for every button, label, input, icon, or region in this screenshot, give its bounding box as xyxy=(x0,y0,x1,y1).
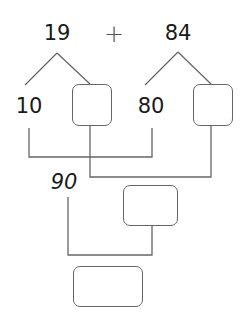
partition-1-tens: 10 xyxy=(16,96,43,117)
split-line-19-left xyxy=(25,53,57,85)
ones-sum-box[interactable] xyxy=(123,185,178,226)
addend-1: 19 xyxy=(44,23,71,44)
partition-2-tens: 80 xyxy=(138,96,165,117)
addend-2: 84 xyxy=(165,23,192,44)
plus-operator: + xyxy=(104,22,124,46)
split-line-84-right xyxy=(178,52,211,84)
partition-2-ones-box[interactable] xyxy=(193,84,233,126)
split-line-84-left xyxy=(145,52,178,85)
ones-bracket xyxy=(90,126,211,177)
total-box[interactable] xyxy=(73,266,143,307)
split-line-19-right xyxy=(57,53,90,84)
partition-1-ones-box[interactable] xyxy=(72,84,112,126)
tens-sum: 90 xyxy=(51,172,78,193)
